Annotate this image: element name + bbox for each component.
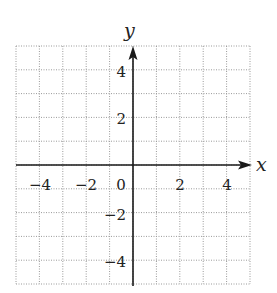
axes (16, 46, 252, 286)
x-tick-label: 4 (222, 176, 232, 194)
y-tick-label: −2 (104, 206, 126, 224)
x-tick-label: 0 (116, 176, 126, 194)
y-tick-label: 2 (116, 110, 126, 128)
y-tick-label: 4 (116, 63, 126, 81)
x-axis-label: x (256, 153, 267, 175)
x-tick-label: −2 (75, 176, 97, 194)
y-tick-label: −4 (104, 253, 126, 271)
x-tick-label: −4 (29, 176, 51, 194)
coordinate-plane: x y −4 −2 0 2 4 4 2 −2 −4 (0, 0, 277, 293)
y-axis-label: y (123, 19, 135, 41)
x-tick-label: 2 (175, 176, 185, 194)
